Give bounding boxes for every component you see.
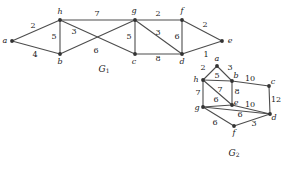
edge-G2-g-e xyxy=(203,105,232,107)
vertex-label-G1-h: h xyxy=(57,7,62,16)
vertex-G1-e[interactable] xyxy=(220,39,224,43)
vertex-label-G2-a: a xyxy=(215,54,220,63)
vertex-G1-c[interactable] xyxy=(133,52,137,56)
vertex-G1-a[interactable] xyxy=(10,39,14,43)
vertex-G1-f[interactable] xyxy=(180,18,184,22)
vertex-G1-g[interactable] xyxy=(133,18,137,22)
edge-weight-G2-f-d: 3 xyxy=(251,119,256,128)
vertex-G2-g[interactable] xyxy=(201,105,205,109)
edge-weight-G1-g-f: 2 xyxy=(155,9,160,18)
edge-weight-G2-g-d: 6 xyxy=(237,110,242,119)
vertex-G2-a[interactable] xyxy=(215,64,219,68)
vertex-G2-h[interactable] xyxy=(201,78,205,82)
vertex-label-G2-h: h xyxy=(193,75,198,84)
graph-caption-subscript-G1: 1 xyxy=(106,67,110,74)
edge-weight-G2-g-e: 6 xyxy=(213,95,218,104)
vertex-label-G2-e: e xyxy=(234,98,239,107)
graph-G1: 2457365238621abhcgdfeG1 xyxy=(3,6,233,74)
edge-weight-G2-e-d: 10 xyxy=(245,100,255,109)
edge-weight-G1-b-g: 6 xyxy=(93,46,98,55)
graph-figure: 2457365238621abhcgdfeG12351077812610663a… xyxy=(0,0,308,172)
vertex-label-G2-c: c xyxy=(271,77,276,86)
svg-root: 2457365238621abhcgdfeG12351077812610663a… xyxy=(3,6,281,158)
edge-weight-G1-g-c: 5 xyxy=(126,32,131,41)
edge-weight-G2-h-e: 7 xyxy=(217,85,222,94)
vertex-label-G2-b: b xyxy=(233,71,238,80)
edge-weight-G2-h-g: 7 xyxy=(195,88,200,97)
vertex-label-G1-e: e xyxy=(228,36,233,45)
edge-weight-G2-g-f: 6 xyxy=(212,118,217,127)
edge-G1-d-e xyxy=(182,41,222,54)
graphs-svg: 2457365238621abhcgdfeG12351077812610663a… xyxy=(0,0,308,172)
edge-weight-G2-b-e: 8 xyxy=(234,87,239,96)
vertex-G1-h[interactable] xyxy=(58,18,62,22)
vertex-label-G2-d: d xyxy=(271,113,276,122)
vertex-label-G1-g: g xyxy=(131,6,136,15)
edge-weight-G1-f-e: 2 xyxy=(202,20,207,29)
graph-caption-G1: G1 xyxy=(98,64,109,74)
graph-caption-G2: G2 xyxy=(228,148,239,158)
edge-weight-G1-c-d: 8 xyxy=(155,54,160,63)
edge-layer-G1 xyxy=(12,20,222,54)
vertex-G1-b[interactable] xyxy=(58,52,62,56)
vertex-G1-d[interactable] xyxy=(180,52,184,56)
edge-weight-G2-c-d: 12 xyxy=(271,95,281,104)
edge-G2-h-b xyxy=(203,80,232,81)
vertex-label-G2-g: g xyxy=(194,103,199,112)
graph-caption-subscript-G2: 2 xyxy=(236,151,240,158)
edge-weight-G1-f-d: 6 xyxy=(174,32,179,41)
edge-weight-G1-a-h: 2 xyxy=(30,21,35,30)
graph-G2: 2351077812610663ahbcgedfG2 xyxy=(193,54,281,158)
edge-weight-G1-g-d: 3 xyxy=(155,28,160,37)
vertex-label-G2-f: f xyxy=(232,128,238,137)
vertex-label-G1-a: a xyxy=(3,36,8,45)
edge-weight-G1-h-b: 5 xyxy=(51,32,56,41)
vertex-label-G1-f: f xyxy=(180,6,186,15)
edge-weight-G2-a-b: 3 xyxy=(227,63,232,72)
edge-weight-G2-h-a: 2 xyxy=(200,63,205,72)
edge-weight-G1-d-e: 1 xyxy=(203,50,208,59)
edge-weight-G1-h-c: 3 xyxy=(71,27,76,36)
edge-weight-G2-b-c: 10 xyxy=(245,74,255,83)
edge-weight-G1-h-g: 7 xyxy=(94,9,99,18)
edge-weight-G1-a-b: 4 xyxy=(32,50,37,59)
vertex-label-G1-c: c xyxy=(132,57,137,66)
vertex-label-G1-d: d xyxy=(179,57,184,66)
vertex-label-G1-b: b xyxy=(57,57,62,66)
edge-weight-G2-h-b: 5 xyxy=(214,71,219,80)
edge-G2-c-d xyxy=(269,86,270,114)
